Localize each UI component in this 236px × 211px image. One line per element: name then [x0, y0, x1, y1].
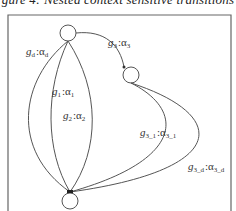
state-node-bottom [62, 193, 78, 209]
label-g1: g1:α1 [52, 85, 75, 99]
edge-g3d [70, 83, 199, 192]
label-g3: g3:α3 [108, 36, 131, 50]
label-g4: gd:αd [26, 45, 49, 59]
label-g2: g2:α2 [63, 109, 86, 123]
state-node-mid [123, 67, 139, 83]
edge-g3-arrowhead [123, 66, 126, 69]
label-g31: g3_1:α3_1 [140, 126, 177, 140]
state-node-top [60, 25, 76, 41]
label-g3d: g3_d:α3_d [188, 160, 225, 174]
nested-transitions-diagram: gd:αd g1:α1 g2:α2 g3:α3 g3_1:α3_1 g3_d:α… [0, 0, 236, 211]
convergence-arrowhead [67, 190, 73, 193]
